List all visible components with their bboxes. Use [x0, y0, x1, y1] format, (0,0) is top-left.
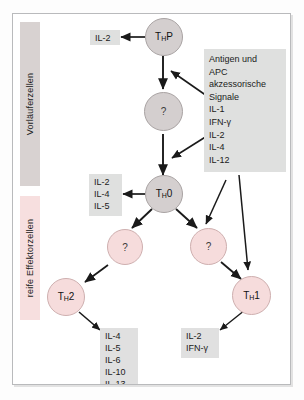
stimulus-box: Antigen und APC akzessorische Signale IL… [204, 49, 286, 172]
cell-th0-subscript: H [162, 192, 167, 199]
cell-th2-subscript: H [64, 295, 69, 302]
cell-question-3-label: ? [206, 241, 212, 252]
chip-th2-output: IL-4 IL-5 IL-6 IL-10 IL-13 [100, 328, 138, 384]
chip-thp-output: IL-2 [90, 30, 120, 45]
cell-thp-label: THP [155, 32, 173, 42]
cell-question-1[interactable]: ? [144, 92, 183, 131]
cell-question-2-label: ? [122, 242, 128, 253]
cell-th0-label: TH0 [156, 189, 173, 199]
chip-th1-output: IL-2 IFN-γ [181, 328, 219, 358]
cell-thp[interactable]: THP [145, 18, 183, 56]
sidebar-vorlaeuferzellen-label: Vorläuferzellen [25, 73, 35, 136]
cell-th1-label: TH1 [243, 291, 260, 301]
cell-th2[interactable]: TH2 [47, 278, 85, 316]
cell-th0[interactable]: TH0 [145, 175, 183, 213]
diagram-canvas: Vorläuferzellen reife Effektorzellen [0, 0, 304, 400]
cell-th2-label: TH2 [58, 292, 75, 302]
cell-question-1-label: ? [161, 106, 167, 117]
cell-question-2[interactable]: ? [107, 229, 143, 265]
cell-thp-subscript: H [161, 35, 166, 42]
sidebar-effektorzellen-label: reife Effektorzellen [25, 219, 35, 297]
chip-th0-output: IL-2 IL-4 IL-5 [89, 174, 122, 216]
cell-th1[interactable]: TH1 [232, 276, 271, 315]
sidebar-vorlaeuferzellen: Vorläuferzellen [20, 22, 40, 186]
cell-th1-subscript: H [249, 294, 254, 301]
sidebar-effektorzellen: reife Effektorzellen [20, 196, 40, 320]
cell-question-3[interactable]: ? [190, 228, 227, 265]
